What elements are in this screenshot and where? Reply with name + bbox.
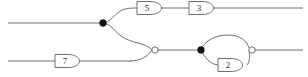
gate-7-label: 7 — [63, 56, 68, 66]
nor-gate-left-upper-arc — [103, 8, 137, 23]
gate-5[interactable]: 5 — [137, 2, 162, 15]
nor-gate-left-bubble — [152, 47, 158, 53]
gate-5-body — [137, 2, 162, 15]
gate-7[interactable]: 7 — [55, 55, 80, 68]
nor-gate-left-lower-arc — [103, 23, 152, 50]
gate-7-body — [55, 55, 80, 68]
nor-gate-right-bubble — [249, 47, 255, 53]
gate-3[interactable]: 3 — [189, 2, 214, 15]
junction-top-dot — [100, 20, 107, 27]
circuit-canvas: 5 3 7 2 — [0, 0, 308, 77]
gate-5-label: 5 — [145, 3, 150, 13]
nor-gate-left-bottom-arc — [130, 50, 152, 61]
gate-2-body — [218, 59, 243, 72]
gate-2[interactable]: 2 — [218, 59, 243, 72]
gate-3-label: 3 — [197, 3, 202, 13]
gate-2-label: 2 — [226, 60, 231, 70]
gate-3-body — [189, 2, 214, 15]
nor-gate-right-upper-arc — [201, 35, 249, 50]
logic-circuit-diagram: 5 3 7 2 — [0, 0, 308, 77]
nor-gate-right-lower-arc-return — [247, 51, 250, 65]
junction-right-dot — [198, 47, 205, 54]
